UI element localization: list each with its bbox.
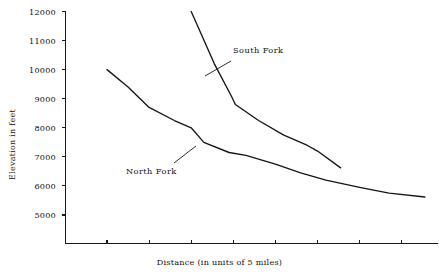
south-fork-leader-line bbox=[205, 61, 231, 76]
y-axis-label: Elevation in feet bbox=[8, 95, 17, 195]
y-axis-tick-label: 12000 bbox=[29, 7, 56, 17]
series-line-south-fork bbox=[191, 12, 340, 168]
series-line-north-fork bbox=[107, 70, 425, 197]
y-axis-tick-label: 5000 bbox=[34, 210, 56, 220]
north-fork-leader-line bbox=[174, 146, 196, 163]
y-axis-tick-label: 8000 bbox=[34, 123, 56, 133]
y-axis-tick-label: 11000 bbox=[29, 36, 56, 46]
series-label-north-fork: North Fork bbox=[126, 166, 177, 176]
y-axis-tick-label: 10000 bbox=[29, 65, 56, 75]
chart-figure: 50006000700080009000100001100012000 Elev… bbox=[0, 0, 439, 274]
x-axis-label: Distance (in units of 5 miles) bbox=[0, 257, 439, 267]
annotation-leader-lines bbox=[174, 61, 231, 163]
y-axis-tick-label: 6000 bbox=[34, 181, 56, 191]
y-axis-tick-label: 7000 bbox=[34, 152, 56, 162]
y-axis-tick-label: 9000 bbox=[34, 94, 56, 104]
series-label-south-fork: South Fork bbox=[233, 45, 284, 55]
line-chart-canvas bbox=[0, 0, 439, 274]
